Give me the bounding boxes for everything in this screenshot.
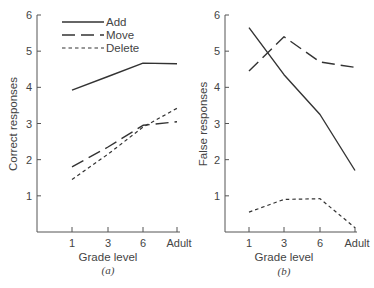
- x-tick-label: Adult: [166, 237, 191, 249]
- series-line-add-b: [249, 28, 355, 171]
- y-axis-title-b: False responses: [197, 82, 209, 167]
- y-tick-label: 5: [214, 45, 220, 57]
- x-axis-title-a: Grade level: [79, 251, 138, 263]
- legend-delete-label: Delete: [106, 42, 139, 54]
- panel-label-b: (b): [278, 265, 291, 278]
- y-axis-title-a: Correct responses: [7, 77, 19, 171]
- panel-b-chart: 123456 136Adult False responses Grade le…: [197, 9, 370, 278]
- legend-add-label: Add: [106, 16, 126, 28]
- legend: Add Move Delete: [62, 16, 139, 54]
- y-tick-label: 6: [26, 9, 32, 21]
- series-line-delete-a: [72, 108, 177, 179]
- y-tick-label: 2: [26, 154, 32, 166]
- y-tick-label: 3: [214, 118, 220, 130]
- y-tick-label: 6: [214, 9, 220, 21]
- y-tick-label: 1: [26, 190, 32, 202]
- x-tick-label: 1: [69, 237, 75, 249]
- x-tick-label: 1: [246, 237, 252, 249]
- series-line-add-a: [72, 63, 177, 90]
- x-tick-label: 6: [140, 237, 146, 249]
- y-tick-label: 4: [26, 81, 32, 93]
- panel-label-a: (a): [102, 264, 115, 277]
- figure: 123456 136Adult Correct responses Grade …: [0, 0, 374, 288]
- series-line-delete-b: [249, 199, 355, 228]
- x-tick-label: 3: [281, 237, 287, 249]
- y-tick-label: 2: [214, 154, 220, 166]
- panel-a-chart: 123456 136Adult Correct responses Grade …: [7, 9, 192, 277]
- y-tick-label: 5: [26, 45, 32, 57]
- series-line-move-b: [249, 37, 355, 71]
- legend-move-label: Move: [106, 29, 134, 41]
- x-axis-title-b: Grade level: [255, 251, 314, 263]
- x-tick-label: 3: [105, 237, 111, 249]
- y-tick-label: 3: [26, 118, 32, 130]
- x-tick-label: 6: [317, 237, 323, 249]
- x-tick-label: Adult: [344, 237, 369, 249]
- y-tick-label: 1: [214, 190, 220, 202]
- y-tick-label: 4: [214, 81, 220, 93]
- series-line-move-a: [72, 122, 177, 167]
